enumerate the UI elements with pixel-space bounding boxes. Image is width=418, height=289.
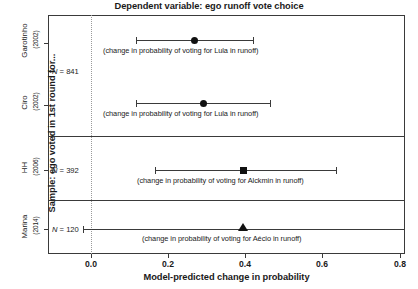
y-panel-year-hh: (2006) <box>32 144 39 190</box>
y-axis-title: Sample: ego voted in 1st round for... <box>47 18 57 248</box>
data-point-ciro <box>200 100 207 107</box>
x-tick-label-3: 0.6 <box>316 259 328 269</box>
y-panel-label-ciro: Ciro <box>20 80 29 126</box>
annotation-hh: (change in probability of voting for Alc… <box>137 176 304 185</box>
error-bar-cap-low-ciro <box>136 100 137 107</box>
x-tick-1 <box>168 254 169 258</box>
chart-title: Dependent variable: ego runoff vote choi… <box>0 1 418 11</box>
x-tick-label-4: 0.8 <box>394 259 406 269</box>
annotation-ciro: (change in probability of voting for Lul… <box>103 109 258 118</box>
x-tick-label-0: 0.0 <box>85 259 97 269</box>
error-bar-cap-high-marina <box>404 226 405 233</box>
error-bar-cap-high-ciro <box>270 100 271 107</box>
y-panel-label-garotinho: Garotinho <box>20 18 29 64</box>
x-tick-4 <box>400 254 401 258</box>
y-panel-year-ciro: (2002) <box>32 79 39 125</box>
x-tick-2 <box>245 254 246 258</box>
x-tick-0 <box>91 254 92 258</box>
error-bar-cap-low-hh <box>155 167 156 174</box>
x-tick-3 <box>322 254 323 258</box>
x-axis-title: Model-predicted change in probability <box>48 272 405 282</box>
error-bar-cap-high-hh <box>336 167 337 174</box>
panel-separator-2 <box>48 200 405 201</box>
zero-reference-line <box>91 15 92 254</box>
y-panel-label-marina: Marina <box>20 204 29 250</box>
x-tick-label-2: 0.4 <box>239 259 251 269</box>
y-panel-year-garotinho: (2002) <box>32 17 39 63</box>
chart-figure: Dependent variable: ego runoff vote choi… <box>0 0 418 289</box>
y-panel-year-marina: (2014) <box>32 203 39 249</box>
error-bar-cap-high-garotinho <box>253 37 254 44</box>
annotation-garotinho: (change in probability of voting for Lul… <box>103 46 258 55</box>
error-bar-cap-low-marina <box>83 226 84 233</box>
data-point-garotinho <box>191 37 198 44</box>
panel-separator-1 <box>48 136 405 137</box>
x-tick-label-1: 0.2 <box>162 259 174 269</box>
data-point-marina <box>238 223 248 231</box>
y-panel-label-hh: HH <box>20 145 29 191</box>
error-bar-cap-low-garotinho <box>136 37 137 44</box>
annotation-marina: (change in probability of voting for Aéc… <box>142 234 302 243</box>
data-point-hh <box>240 167 247 174</box>
